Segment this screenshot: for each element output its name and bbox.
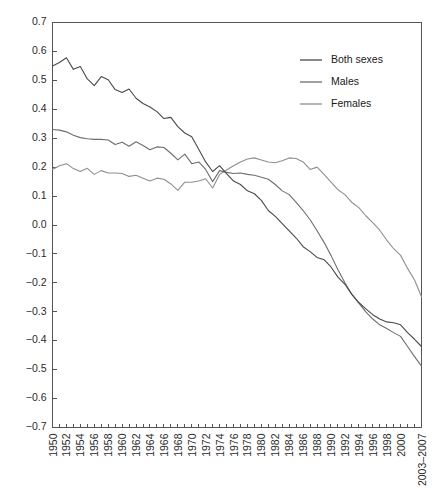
x-tick-label: 1994	[353, 433, 365, 457]
x-tick-label: 1982	[269, 433, 281, 457]
legend-label-females: Females	[331, 97, 371, 109]
x-tick-label: 1966	[158, 433, 170, 457]
y-tick-label: 0.6	[32, 44, 47, 56]
x-tick-label: 1978	[241, 433, 253, 457]
x-tick-label: 1952	[60, 433, 72, 457]
x-tick-label: 1976	[228, 433, 240, 457]
plot-area-border	[53, 23, 422, 428]
chart-legend: Both sexesMalesFemales	[300, 53, 383, 109]
x-tick-label: 1958	[102, 433, 114, 457]
legend-label-both-sexes: Both sexes	[331, 53, 383, 65]
y-tick-label: −0.6	[26, 391, 47, 403]
chart-canvas: 0.70.60.50.40.30.20.10.0−0.1−0.2−0.3−0.4…	[0, 0, 445, 499]
y-tick-label: 0.1	[32, 189, 47, 201]
x-tick-label: 2000	[395, 433, 407, 457]
x-axis-labels: 1950195219541956195819601962196419661968…	[47, 433, 428, 486]
legend-label-males: Males	[331, 75, 359, 87]
y-tick-label: 0.0	[32, 218, 47, 230]
x-tick-label: 1992	[339, 433, 351, 457]
x-tick-label: 1996	[367, 433, 379, 457]
y-tick-label: 0.2	[32, 160, 47, 172]
x-tick-label: 1964	[144, 433, 156, 457]
x-tick-label: 1962	[130, 433, 142, 457]
y-tick-label: −0.7	[26, 420, 47, 432]
x-tick-label: 1950	[47, 433, 59, 457]
y-tick-label: −0.1	[26, 247, 47, 259]
y-axis-labels: 0.70.60.50.40.30.20.10.0−0.1−0.2−0.3−0.4…	[26, 15, 47, 432]
y-tick-label: 0.3	[32, 131, 47, 143]
y-tick-label: −0.3	[26, 305, 47, 317]
x-tick-label: 1972	[200, 433, 212, 457]
y-tick-label: −0.4	[26, 333, 47, 345]
x-tick-label: 1960	[116, 433, 128, 457]
y-tick-label: −0.2	[26, 276, 47, 288]
x-tick-label: 1986	[297, 433, 309, 457]
x-tick-label: 1970	[186, 433, 198, 457]
line-chart: 0.70.60.50.40.30.20.10.0−0.1−0.2−0.3−0.4…	[0, 0, 445, 499]
x-tick-label: 1988	[311, 433, 323, 457]
x-tick-label: 1990	[325, 433, 337, 457]
x-tick-label: 1954	[74, 433, 86, 457]
y-tick-label: 0.4	[32, 102, 47, 114]
series-line-females	[53, 158, 422, 297]
y-tick-label: −0.5	[26, 362, 47, 374]
x-tick-label: 1984	[283, 433, 295, 457]
x-tick-label: 1980	[255, 433, 267, 457]
x-axis-ticks	[53, 424, 422, 428]
y-tick-label: 0.7	[32, 15, 47, 27]
series-line-males	[53, 130, 422, 367]
x-tick-label: 1974	[214, 433, 226, 457]
y-tick-label: 0.5	[32, 73, 47, 85]
x-tick-label: 1956	[88, 433, 100, 457]
x-tick-label: 1968	[172, 433, 184, 457]
y-axis-ticks	[53, 23, 57, 428]
x-tick-label: 2003–2007	[416, 433, 428, 486]
x-tick-label: 1998	[381, 433, 393, 457]
plot-frame	[53, 23, 422, 428]
